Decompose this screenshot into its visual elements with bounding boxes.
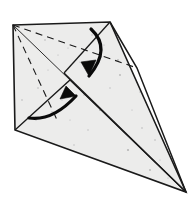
speckle xyxy=(167,177,168,178)
speckle xyxy=(21,99,23,101)
origami-figure xyxy=(0,0,190,208)
speckle xyxy=(47,69,48,70)
speckle xyxy=(44,39,46,41)
speckle xyxy=(57,54,58,55)
origami-diagram-root xyxy=(0,0,190,208)
speckle xyxy=(154,139,156,141)
speckle xyxy=(67,47,68,48)
speckle xyxy=(103,44,104,45)
speckle xyxy=(127,149,129,151)
speckle xyxy=(61,99,62,100)
speckle xyxy=(131,109,132,110)
speckle xyxy=(79,61,80,62)
speckle xyxy=(149,169,151,171)
speckle xyxy=(37,87,39,89)
speckle xyxy=(95,164,96,165)
speckle xyxy=(91,34,92,35)
speckle xyxy=(119,74,121,76)
speckle xyxy=(109,87,110,88)
speckle xyxy=(87,129,88,130)
speckle xyxy=(69,119,70,120)
speckle xyxy=(159,159,160,160)
speckle xyxy=(73,144,74,145)
speckle xyxy=(141,127,143,129)
